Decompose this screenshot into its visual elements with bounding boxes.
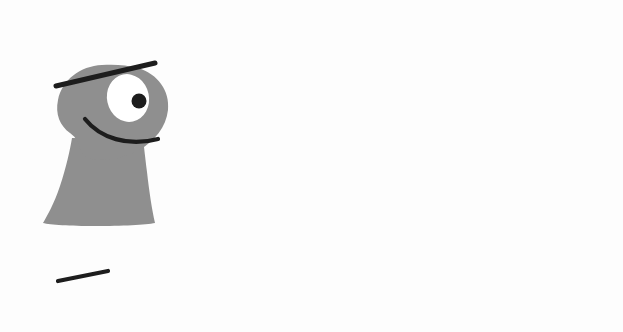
illustration-svg bbox=[0, 0, 623, 332]
figure-1-eye-pupil bbox=[132, 94, 147, 109]
illustration-canvas: single slanted line arch stroke bbox=[0, 0, 623, 332]
